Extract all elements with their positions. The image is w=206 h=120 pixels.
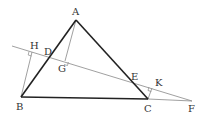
label-C: C (144, 103, 152, 114)
label-K: K (155, 77, 163, 88)
geometry-diagram: A B C D E F G H K (0, 0, 206, 120)
label-E: E (131, 71, 138, 82)
label-B: B (16, 101, 23, 112)
label-G: G (58, 63, 66, 74)
transversal-line (12, 46, 192, 101)
side-AC (76, 20, 148, 99)
label-H: H (30, 40, 39, 51)
side-AB (21, 20, 76, 97)
side-BC (21, 97, 148, 99)
label-A: A (71, 6, 80, 17)
label-F: F (188, 103, 195, 114)
perpendicular-AG (65, 20, 76, 61)
label-D: D (44, 46, 52, 57)
